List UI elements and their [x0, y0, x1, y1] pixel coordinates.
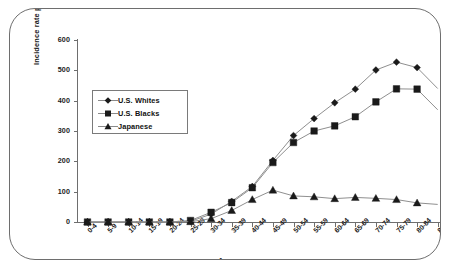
chart-legend: U.S. WhitesU.S. BlacksJapanese [92, 90, 188, 134]
series-line [88, 190, 438, 222]
diamond-marker-icon [98, 94, 118, 107]
y-axis-tick-label: 500 [12, 66, 70, 74]
triangle-marker-icon [351, 194, 359, 201]
legend-item-japanese: Japanese [93, 120, 187, 133]
square-marker-icon [331, 123, 338, 130]
square-marker-icon [290, 139, 297, 146]
y-axis-tick-labels: 0100200300400500600 [10, 9, 70, 260]
legend-item-u-s-whites: U.S. Whites [93, 94, 187, 107]
legend-item-label: U.S. Whites [118, 96, 160, 105]
y-axis-tick-label: 200 [12, 157, 70, 165]
square-marker-icon [311, 128, 318, 135]
square-marker-icon [393, 86, 400, 93]
square-marker-icon [373, 99, 380, 106]
legend-item-label: U.S. Blacks [118, 109, 159, 118]
triangle-marker-icon [98, 120, 118, 133]
x-axis-title: Age group [10, 257, 441, 260]
series-line [88, 62, 438, 222]
legend-item-label: Japanese [118, 122, 153, 131]
triangle-marker-icon [269, 186, 277, 193]
square-marker-icon [270, 159, 277, 166]
y-axis-tick-label: 0 [12, 218, 70, 226]
series-japanese [84, 186, 438, 225]
y-axis-tick-label: 600 [12, 36, 70, 44]
square-marker-icon [98, 107, 118, 120]
y-axis-tick-label: 100 [12, 188, 70, 196]
square-marker-icon [228, 199, 235, 206]
y-axis-tick-label: 300 [12, 127, 70, 135]
legend-item-u-s-blacks: U.S. Blacks [93, 107, 187, 120]
triangle-marker-icon [228, 207, 236, 214]
square-marker-icon [352, 113, 359, 120]
triangle-marker-icon [207, 215, 215, 222]
triangle-marker-icon [248, 196, 256, 203]
square-marker-icon [249, 184, 256, 191]
square-marker-icon [414, 86, 421, 93]
series-u-s-whites [84, 59, 438, 226]
chart-figure: Incidence rate per 100,000 0100200300400… [0, 0, 459, 275]
y-axis-tick-label: 400 [12, 97, 70, 105]
figure-border: Incidence rate per 100,000 0100200300400… [9, 8, 441, 260]
diamond-marker-icon [393, 59, 400, 66]
